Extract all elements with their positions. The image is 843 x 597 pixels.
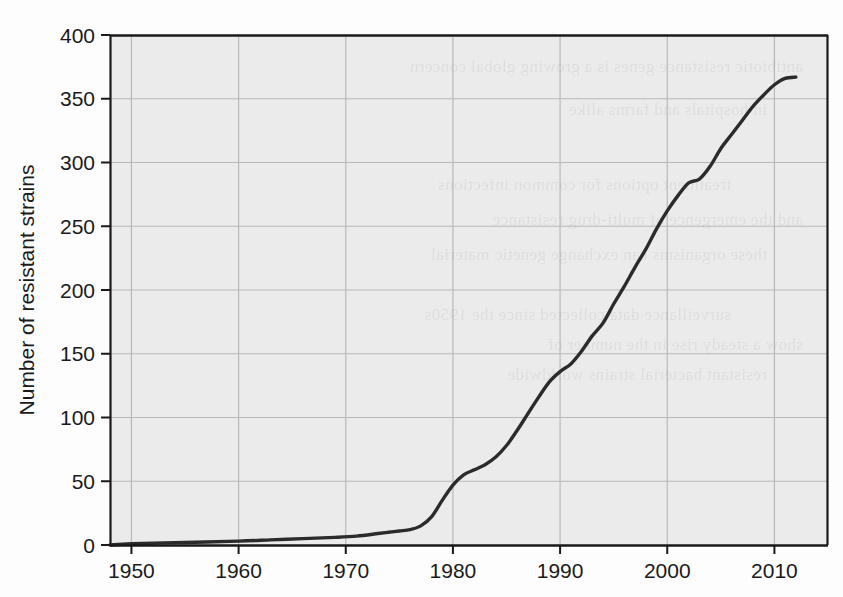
y-axis-title: Number of resistant strains bbox=[15, 165, 38, 416]
x-axis-tick-labels: 1950196019701980199020002010 bbox=[108, 559, 798, 582]
line-chart: 050100150200250300350400 195019601970198… bbox=[0, 0, 843, 597]
y-axis-tick-labels: 050100150200250300350400 bbox=[60, 24, 95, 557]
y-tick-label: 0 bbox=[83, 534, 95, 557]
x-tick-label: 1980 bbox=[430, 559, 477, 582]
chart-figure: antibiotic resistance genes is a growing… bbox=[0, 0, 843, 597]
y-tick-label: 300 bbox=[60, 151, 95, 174]
y-tick-label: 100 bbox=[60, 406, 95, 429]
y-tick-label: 50 bbox=[72, 470, 95, 493]
x-tick-label: 1970 bbox=[322, 559, 369, 582]
y-tick-label: 200 bbox=[60, 279, 95, 302]
y-tick-label: 400 bbox=[60, 24, 95, 47]
y-tick-label: 350 bbox=[60, 87, 95, 110]
x-tick-label: 1990 bbox=[537, 559, 584, 582]
x-tick-label: 1950 bbox=[108, 559, 155, 582]
x-tick-label: 2010 bbox=[751, 559, 798, 582]
x-tick-label: 2000 bbox=[644, 559, 691, 582]
y-tick-label: 150 bbox=[60, 342, 95, 365]
y-tick-label: 250 bbox=[60, 215, 95, 238]
x-tick-label: 1960 bbox=[215, 559, 262, 582]
y-axis-ticks bbox=[101, 35, 110, 545]
